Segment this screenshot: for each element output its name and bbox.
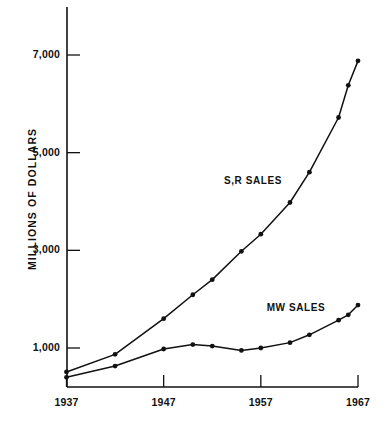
data-point-marker bbox=[346, 312, 351, 317]
data-point-marker bbox=[113, 364, 118, 369]
x-tick-label: 1957 bbox=[236, 396, 286, 408]
data-point-marker bbox=[161, 316, 166, 321]
data-point-marker bbox=[356, 303, 361, 308]
data-point-marker bbox=[307, 170, 312, 175]
data-point-marker bbox=[258, 346, 263, 351]
x-tick-label: 1937 bbox=[42, 396, 92, 408]
y-tick-label: 7,000 bbox=[12, 48, 60, 60]
data-point-marker bbox=[356, 58, 361, 63]
series-layer bbox=[64, 58, 360, 379]
data-point-marker bbox=[210, 344, 215, 349]
data-point-marker bbox=[336, 318, 341, 323]
series-mw-sales bbox=[64, 303, 360, 380]
data-point-marker bbox=[64, 375, 69, 380]
data-point-marker bbox=[190, 292, 195, 297]
series-line bbox=[67, 305, 359, 377]
data-point-marker bbox=[346, 83, 351, 88]
data-point-marker bbox=[288, 340, 293, 345]
data-point-marker bbox=[307, 332, 312, 337]
data-point-marker bbox=[161, 347, 166, 352]
data-point-marker bbox=[336, 115, 341, 120]
x-tick-marks bbox=[67, 375, 359, 387]
y-axis-title: MILLIONS OF DOLLARS bbox=[26, 128, 38, 270]
series-line bbox=[67, 61, 359, 372]
data-point-marker bbox=[239, 348, 244, 353]
data-point-marker bbox=[113, 352, 118, 357]
data-point-marker bbox=[64, 370, 69, 375]
x-tick-label: 1967 bbox=[333, 396, 383, 408]
chart-plot-area bbox=[0, 0, 389, 428]
mw-sales-label: MW SALES bbox=[267, 302, 326, 313]
sr-sales-label: S,R SALES bbox=[224, 175, 282, 186]
y-tick-marks bbox=[67, 55, 80, 348]
data-point-marker bbox=[288, 200, 293, 205]
y-tick-label: 1,000 bbox=[12, 341, 60, 353]
data-point-marker bbox=[210, 277, 215, 282]
series-sr-sales bbox=[64, 58, 360, 374]
chart-figure: 1,0003,0005,0007,000 1937194719571967 MI… bbox=[0, 0, 389, 428]
data-point-marker bbox=[239, 249, 244, 254]
data-point-marker bbox=[190, 342, 195, 347]
data-point-marker bbox=[258, 232, 263, 237]
x-tick-label: 1947 bbox=[139, 396, 189, 408]
